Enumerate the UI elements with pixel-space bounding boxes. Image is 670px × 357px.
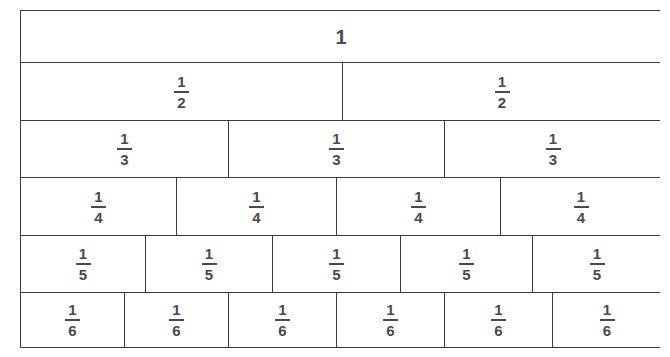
fraction-cell-1-5: 15	[146, 236, 273, 292]
fraction-label: 16	[491, 302, 506, 338]
fraction-bar-icon	[91, 206, 106, 208]
fraction-denominator: 4	[414, 210, 422, 225]
fraction-bar-icon	[117, 148, 132, 150]
fraction-cell-1-2: 12	[21, 63, 343, 120]
fraction-cell-1-6: 16	[229, 293, 337, 347]
fraction-numerator: 1	[68, 302, 76, 318]
fraction-cell-1-4: 14	[501, 178, 661, 235]
whole-label: 1	[335, 27, 346, 47]
fraction-label: 12	[495, 74, 510, 110]
fraction-bar-icon	[383, 319, 398, 321]
fraction-cell-1-4: 14	[337, 178, 501, 235]
fraction-row-2: 1212	[20, 62, 660, 120]
fraction-bar-icon	[600, 319, 615, 321]
fraction-cell-1-3: 13	[445, 121, 661, 177]
fraction-cell-1-6: 16	[21, 293, 125, 347]
fraction-denominator: 6	[68, 323, 76, 338]
fraction-denominator: 6	[494, 323, 502, 338]
fraction-denominator: 3	[549, 152, 557, 167]
fraction-denominator: 5	[593, 267, 601, 282]
fraction-denominator: 2	[177, 95, 185, 110]
fraction-label: 13	[546, 131, 561, 167]
fraction-cell-1-5: 15	[273, 236, 401, 292]
fraction-row-4: 14141414	[20, 177, 660, 235]
fraction-denominator: 4	[252, 210, 260, 225]
fraction-row-3: 131313	[20, 120, 660, 177]
fraction-label: 15	[76, 246, 91, 282]
fraction-bar-icon	[459, 263, 474, 265]
fraction-cell-1-4: 14	[177, 178, 337, 235]
fraction-denominator: 6	[172, 323, 180, 338]
fraction-label: 14	[574, 189, 589, 225]
fraction-numerator: 1	[332, 131, 340, 147]
fraction-cell-1-5: 15	[533, 236, 661, 292]
fraction-numerator: 1	[494, 302, 502, 318]
whole-cell: 1	[21, 11, 661, 62]
fraction-numerator: 1	[386, 302, 394, 318]
fraction-numerator: 1	[177, 74, 185, 90]
fraction-numerator: 1	[79, 246, 87, 262]
fraction-label: 16	[65, 302, 80, 338]
fraction-bar-icon	[202, 263, 217, 265]
fraction-numerator: 1	[278, 302, 286, 318]
fraction-bar-icon	[65, 319, 80, 321]
fraction-label: 14	[249, 189, 264, 225]
fraction-label: 12	[174, 74, 189, 110]
fraction-label: 14	[91, 189, 106, 225]
fraction-bar-icon	[546, 148, 561, 150]
fraction-row-6: 161616161616	[20, 292, 660, 348]
fraction-row-5: 1515151515	[20, 235, 660, 292]
fraction-denominator: 4	[577, 210, 585, 225]
fraction-numerator: 1	[593, 246, 601, 262]
fraction-label: 14	[411, 189, 426, 225]
fraction-label: 13	[329, 131, 344, 167]
fraction-numerator: 1	[94, 189, 102, 205]
fraction-denominator: 5	[332, 267, 340, 282]
fraction-cell-1-6: 16	[553, 293, 661, 347]
fraction-label: 15	[459, 246, 474, 282]
fraction-cell-1-4: 14	[21, 178, 177, 235]
fraction-cell-1-6: 16	[125, 293, 229, 347]
fraction-denominator: 5	[79, 267, 87, 282]
fraction-bar-icon	[590, 263, 605, 265]
fraction-cell-1-6: 16	[337, 293, 445, 347]
fraction-bar-icon	[491, 319, 506, 321]
fraction-row-1: 1	[20, 10, 660, 62]
fraction-numerator: 1	[603, 302, 611, 318]
fraction-cell-1-5: 15	[401, 236, 533, 292]
fraction-label: 15	[202, 246, 217, 282]
fraction-bar-icon	[174, 91, 189, 93]
fraction-bar-icon	[574, 206, 589, 208]
fraction-bar-icon	[275, 319, 290, 321]
fraction-label: 16	[383, 302, 398, 338]
fraction-bar-icon	[411, 206, 426, 208]
fraction-cell-1-5: 15	[21, 236, 146, 292]
fraction-denominator: 6	[278, 323, 286, 338]
fraction-bar-icon	[249, 206, 264, 208]
fraction-denominator: 5	[462, 267, 470, 282]
fraction-denominator: 2	[498, 95, 506, 110]
fraction-numerator: 1	[414, 189, 422, 205]
fraction-numerator: 1	[332, 246, 340, 262]
fraction-numerator: 1	[252, 189, 260, 205]
fraction-numerator: 1	[205, 246, 213, 262]
fraction-numerator: 1	[172, 302, 180, 318]
fraction-numerator: 1	[549, 131, 557, 147]
fraction-label: 15	[329, 246, 344, 282]
fraction-label: 13	[117, 131, 132, 167]
fraction-denominator: 3	[120, 152, 128, 167]
fraction-denominator: 4	[94, 210, 102, 225]
fraction-denominator: 5	[205, 267, 213, 282]
fraction-cell-1-3: 13	[21, 121, 229, 177]
fraction-numerator: 1	[120, 131, 128, 147]
fraction-cell-1-2: 12	[343, 63, 661, 120]
fraction-bar-icon	[76, 263, 91, 265]
fraction-label: 15	[590, 246, 605, 282]
fraction-numerator: 1	[462, 246, 470, 262]
fraction-bar-icon	[329, 148, 344, 150]
fraction-denominator: 6	[386, 323, 394, 338]
fraction-bar-icon	[169, 319, 184, 321]
fraction-wall-diagram: 1121213131314141414151515151516161616161…	[20, 10, 660, 348]
fraction-cell-1-3: 13	[229, 121, 445, 177]
fraction-label: 16	[600, 302, 615, 338]
